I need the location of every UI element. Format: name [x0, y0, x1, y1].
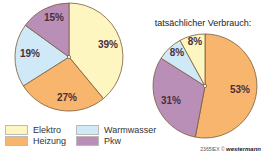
right-label-elektro: 8% — [188, 36, 203, 47]
left-label-elektro: 39% — [98, 39, 118, 50]
legend-item-warmwasser: Warmwasser — [76, 125, 156, 135]
legend-label-elektro: Elektro — [33, 125, 61, 135]
legend-swatch-warmwasser — [76, 125, 99, 135]
credit-brand: westermann — [226, 146, 261, 152]
left-label-pkw: 15% — [44, 12, 64, 23]
legend-label-heizung: Heizung — [33, 136, 66, 146]
right-chart-title: tatsächlicher Verbrauch: — [155, 18, 252, 28]
right-label-heizung: 53% — [230, 84, 250, 95]
credit: 2365IEX © westermann — [200, 146, 261, 152]
legend-swatch-elektro — [5, 125, 28, 135]
legend-label-warmwasser: Warmwasser — [104, 125, 156, 135]
legend-item-pkw: Pkw — [76, 136, 121, 146]
legend-item-heizung: Heizung — [5, 136, 66, 146]
legend-label-pkw: Pkw — [104, 136, 121, 146]
legend-swatch-pkw — [76, 136, 99, 146]
credit-code: 2365IEX — [200, 146, 219, 152]
legend-swatch-heizung — [5, 136, 28, 146]
left-label-heizung: 27% — [57, 92, 77, 103]
legend-item-elektro: Elektro — [5, 125, 61, 135]
copyright-icon: © — [221, 146, 225, 152]
left-label-warmwasser: 19% — [20, 48, 40, 59]
right-label-pkw: 31% — [161, 95, 181, 106]
right-label-warmwasser: 8% — [170, 47, 185, 58]
